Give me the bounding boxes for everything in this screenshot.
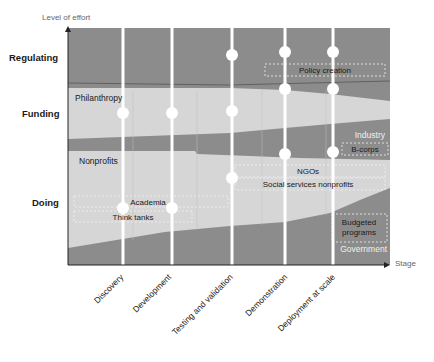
diagram-canvas: Philanthropy Nonprofits Industry Governm… bbox=[0, 0, 434, 362]
budgeted-label-1: Budgeted bbox=[342, 218, 376, 227]
philanthropy-label: Philanthropy bbox=[75, 93, 123, 103]
marker-deployment-regulating bbox=[327, 46, 339, 58]
social-services-label: Social services nonprofits bbox=[263, 180, 354, 189]
y-axis-title: Level of effort bbox=[42, 13, 90, 22]
industry-label: Industry bbox=[355, 130, 386, 140]
budgeted-label-2: programs bbox=[342, 228, 376, 237]
government-label: Government bbox=[340, 244, 387, 254]
ylabel-doing: Doing bbox=[32, 197, 59, 208]
effort-stage-diagram: Philanthropy Nonprofits Industry Governm… bbox=[0, 0, 434, 362]
nonprofits-label: Nonprofits bbox=[79, 156, 118, 166]
ylabel-funding: Funding bbox=[22, 108, 59, 119]
marker-deployment-industry bbox=[327, 146, 339, 158]
marker-development-doing bbox=[166, 202, 178, 214]
marker-testing-regulating bbox=[226, 49, 238, 61]
marker-demonstration-regulating bbox=[279, 46, 291, 58]
policy-creation-label: Policy creation bbox=[299, 66, 351, 75]
b-corps-label: B-corps bbox=[351, 145, 379, 154]
marker-deployment-regulating2 bbox=[327, 83, 339, 95]
marker-development-funding bbox=[166, 107, 178, 119]
marker-testing-funding bbox=[226, 105, 238, 117]
think-tanks-label: Think tanks bbox=[113, 213, 154, 222]
marker-testing-doing bbox=[226, 172, 238, 184]
marker-discovery-funding bbox=[117, 107, 129, 119]
academia-label: Academia bbox=[130, 198, 166, 207]
marker-demonstration-industry bbox=[279, 148, 291, 160]
ngos-label: NGOs bbox=[297, 167, 319, 176]
x-axis-title: Stage bbox=[395, 259, 416, 268]
marker-demonstration-regulating2 bbox=[279, 83, 291, 95]
ylabel-regulating: Regulating bbox=[9, 52, 58, 63]
